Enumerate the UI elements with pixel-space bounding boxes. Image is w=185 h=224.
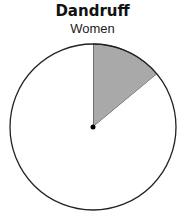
pie-center-dot (91, 125, 96, 130)
pie-chart (0, 0, 185, 224)
